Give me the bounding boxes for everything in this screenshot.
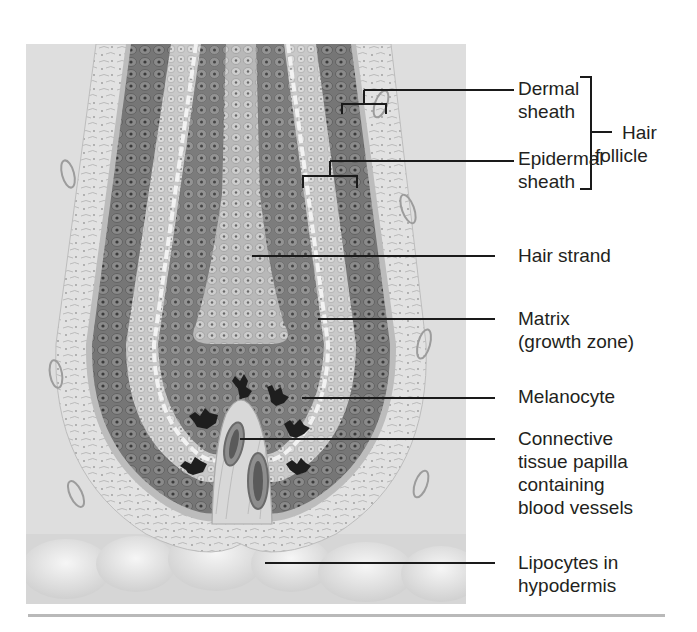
label-line: follicle <box>595 144 657 167</box>
label-line: Connective <box>518 427 633 450</box>
hair-follicle-illustration <box>26 44 466 604</box>
label-line: Lipocytes in <box>518 551 618 574</box>
leader-melanocyte <box>302 397 495 399</box>
label-line: tissue papilla <box>518 450 633 473</box>
label-hair-strand: Hair strand <box>518 244 611 267</box>
label-line: Hair <box>595 121 657 144</box>
label-line: Epidermal <box>518 147 604 170</box>
label-line: Hair strand <box>518 244 611 267</box>
label-dermal-sheath: Dermal sheath <box>518 77 579 123</box>
label-melanocyte: Melanocyte <box>518 385 615 408</box>
label-papilla: Connective tissue papilla containing blo… <box>518 427 633 519</box>
leader-hair-strand <box>252 255 495 257</box>
label-lipocytes: Lipocytes in hypodermis <box>518 551 618 597</box>
label-line: sheath <box>518 100 579 123</box>
label-line: hypodermis <box>518 574 618 597</box>
label-line: Dermal <box>518 77 579 100</box>
leader-lipocytes <box>265 562 495 564</box>
leader-dermal-sheath <box>364 89 514 91</box>
leader-epidermal-sheath <box>330 160 514 162</box>
label-line: containing <box>518 473 633 496</box>
label-line: Melanocyte <box>518 385 615 408</box>
label-line: blood vessels <box>518 496 633 519</box>
label-line: (growth zone) <box>518 330 634 353</box>
bottom-divider <box>28 614 665 617</box>
label-epidermal-sheath: Epidermal sheath <box>518 147 604 193</box>
label-line: Matrix <box>518 307 634 330</box>
label-hair-follicle: Hair follicle <box>595 121 657 167</box>
label-line: sheath <box>518 170 604 193</box>
leader-matrix <box>318 318 495 320</box>
label-matrix: Matrix (growth zone) <box>518 307 634 353</box>
leader-papilla <box>240 438 495 440</box>
